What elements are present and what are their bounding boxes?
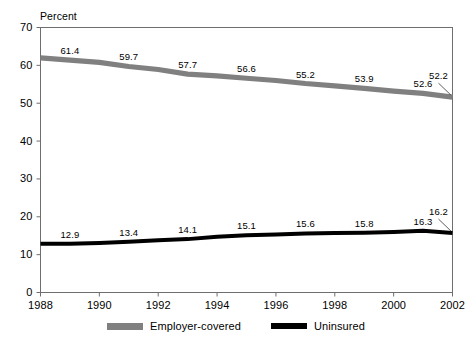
x-tick-label: 1990	[77, 300, 121, 311]
data-point-label: 59.7	[119, 52, 138, 62]
chart-container: Percent 010203040506070 1988199019921994…	[0, 0, 472, 339]
x-tick-label: 1992	[136, 300, 180, 311]
data-point-label: 16.3	[414, 217, 433, 227]
data-point-label: 16.2	[429, 207, 448, 217]
legend-label: Employer-covered	[150, 320, 241, 332]
data-series-lines	[41, 58, 453, 244]
series-line-uninsured	[41, 231, 453, 244]
data-point-label: 61.4	[60, 46, 79, 56]
data-point-label: 15.6	[296, 219, 315, 229]
x-tick-label: 1996	[254, 300, 298, 311]
y-tick-label: 70	[7, 22, 33, 33]
x-tick-label: 1988	[19, 300, 63, 311]
data-point-label: 53.9	[355, 74, 374, 84]
y-tick-label: 10	[7, 249, 33, 260]
data-point-label: 15.1	[237, 221, 256, 231]
data-point-label: 55.2	[296, 70, 315, 80]
y-axis-unit-label: Percent	[40, 10, 77, 22]
data-point-label: 15.8	[355, 219, 374, 229]
x-tick-label: 2002	[431, 300, 472, 311]
data-point-label: 14.1	[178, 225, 197, 235]
data-point-label: 56.6	[237, 64, 256, 74]
data-point-label: 52.2	[429, 71, 448, 81]
y-tick-label: 30	[7, 173, 33, 184]
y-tick-label: 60	[7, 60, 33, 71]
legend-label: Uninsured	[314, 320, 365, 332]
legend-item-uninsured[interactable]: Uninsured	[271, 320, 365, 332]
data-point-label: 12.9	[60, 230, 79, 240]
y-tick-label: 20	[7, 211, 33, 222]
y-tick-label: 50	[7, 98, 33, 109]
y-tick-label: 0	[7, 287, 33, 298]
legend-swatch-icon	[107, 323, 143, 330]
legend-item-employer-covered[interactable]: Employer-covered	[107, 320, 241, 332]
legend-swatch-icon	[271, 323, 307, 329]
y-tick-label: 40	[7, 136, 33, 147]
chart-legend: Employer-coveredUninsured	[0, 316, 472, 336]
data-point-label: 13.4	[119, 228, 138, 238]
x-tick-label: 1998	[313, 300, 357, 311]
x-tick-label: 2000	[372, 300, 416, 311]
data-point-label: 57.7	[178, 60, 197, 70]
x-tick-label: 1994	[195, 300, 239, 311]
